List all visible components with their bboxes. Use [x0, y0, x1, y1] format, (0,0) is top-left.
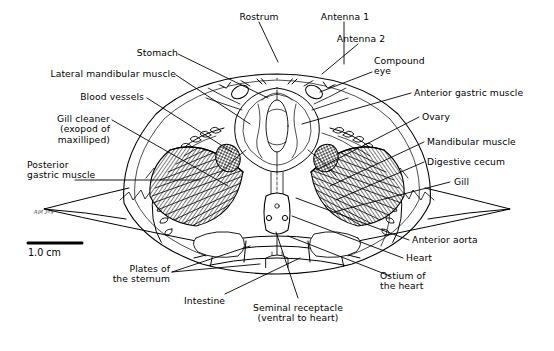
label-intestine: Intestine: [184, 296, 225, 306]
label-anterior-gastric-muscle: Anterior gastric muscle: [414, 88, 523, 98]
leader-intestine: [225, 258, 300, 294]
label-ostium-of-the-heart: Ostium of the heart: [380, 271, 426, 292]
label-mandibular-muscle: Mandibular muscle: [427, 137, 516, 147]
label-gill: Gill: [454, 177, 469, 187]
label-heart: Heart: [406, 253, 432, 263]
label-stomach: Stomach: [80, 48, 178, 58]
label-lateral-mandibular-muscle: Lateral mandibular muscle: [24, 69, 176, 79]
leader-rostrum: [259, 22, 278, 62]
stomach: [235, 88, 320, 172]
label-antenna-2: Antenna 2: [316, 34, 406, 44]
label-blood-vessels: Blood vessels: [52, 92, 144, 102]
figure-canvas: Rostrum Antenna 1 Antenna 2 Compound eye…: [0, 0, 554, 351]
scale-bar-label: 1.0 cm: [28, 247, 61, 258]
label-plates-of-the-sternum: Plates of the sternum: [84, 264, 170, 285]
label-ovary: Ovary: [422, 112, 450, 122]
artist-signature: Apt Joy: [34, 207, 54, 214]
mandibular-muscle-right: [310, 137, 404, 231]
label-rostrum: Rostrum: [214, 12, 304, 22]
label-seminal-receptacle: Seminal receptacle (ventral to heart): [236, 303, 360, 324]
label-digestive-cecum: Digestive cecum: [427, 157, 505, 167]
label-gill-cleaner: Gill cleaner (exopod of maxilliped): [26, 114, 110, 145]
leader-stomach: [178, 54, 268, 98]
leader-antenna2: [322, 44, 358, 74]
label-antenna-1: Antenna 1: [300, 12, 390, 22]
leader-blood-vessels: [147, 98, 232, 152]
label-posterior-gastric-muscle: Posterior gastric muscle: [27, 160, 95, 181]
label-compound-eye: Compound eye: [374, 56, 425, 77]
leader-compound-eye: [320, 72, 372, 92]
label-anterior-aorta: Anterior aorta: [412, 235, 478, 245]
median-structures: [264, 172, 290, 289]
